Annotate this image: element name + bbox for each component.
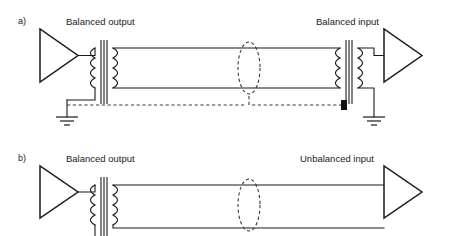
panel-a-dest-ground-symbol-icon [358, 88, 385, 125]
panel-a-source-amplifier-triangle-icon [40, 29, 78, 82]
panel-b-source-label: Balanced output [66, 153, 135, 164]
panel-a-dest-amplifier-triangle-icon [384, 29, 422, 82]
panel-a-dest-label: Balanced input [316, 16, 379, 27]
panel-b-dest-label: Unbalanced input [300, 153, 374, 164]
panel-b-output-transformer-secondary [113, 185, 118, 225]
panel-a-output-transformer-primary-return [67, 88, 95, 100]
circuit-diagram-figure: a) Balanced output [0, 0, 452, 236]
panel-a-cable-shield-ellipse-icon [238, 42, 260, 94]
panel-b-cable-shield-ellipse-icon [238, 179, 260, 231]
panel-b-output-transformer-primary [91, 185, 96, 225]
panel-b-signal-conductor-bottom [113, 225, 384, 228]
panel-a-input-transformer-icon [336, 40, 363, 104]
panel-a-output-transformer-primary [91, 48, 96, 88]
panel-a-input-transformer-secondary [358, 48, 363, 88]
panel-b-label: b) [18, 153, 26, 163]
diagram-canvas: a) Balanced output [0, 0, 452, 236]
panel-a-output-transformer-icon [67, 40, 118, 104]
panel-b-dest-amplifier-triangle-icon [384, 166, 422, 218]
panel-a: a) Balanced output [18, 16, 422, 125]
panel-a-label: a) [18, 16, 26, 26]
panel-b-source-amplifier-triangle-icon [40, 166, 78, 218]
panel-a-source-label: Balanced output [66, 16, 135, 27]
panel-a-source-ground-symbol-icon [56, 100, 78, 125]
panel-a-input-transformer-primary [336, 48, 341, 88]
panel-a-output-transformer-secondary [113, 48, 118, 88]
panel-b: b) Balanced output Unbalanced input [18, 153, 422, 236]
